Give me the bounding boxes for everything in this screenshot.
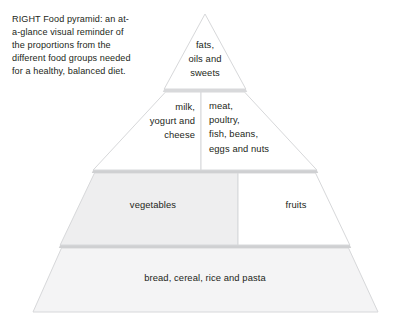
pyramid-label-grains: bread, cereal, rice and pasta xyxy=(55,271,355,285)
pyramid-label-fruits: fruits xyxy=(244,198,348,212)
food-pyramid-diagram: fats, oils and sweets milk, yogurt and c… xyxy=(0,0,402,328)
pyramid-label-dairy: milk, yogurt and cheese xyxy=(133,100,195,143)
pyramid-label-vegetables: vegetables xyxy=(78,198,228,212)
pyramid-label-protein: meat, poultry, fish, beans, eggs and nut… xyxy=(209,99,295,156)
pyramid-label-sweets: fats, oils and sweets xyxy=(168,38,242,81)
